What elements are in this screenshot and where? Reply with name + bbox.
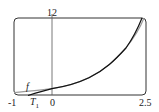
x-max-label: 2.5	[139, 98, 152, 108]
y-max-label: 12	[47, 8, 57, 18]
x-zero-label: 0	[50, 98, 55, 108]
curve-T	[28, 18, 142, 96]
plot-canvas	[0, 0, 159, 112]
curve-T-label-sub: 1	[36, 102, 40, 110]
curve-T-label: T1	[30, 97, 39, 111]
x-min-label: -1	[8, 98, 16, 108]
curve-f-label: f	[26, 82, 29, 92]
curve-f-label-text: f	[26, 81, 29, 92]
plot-frame	[14, 18, 146, 95]
